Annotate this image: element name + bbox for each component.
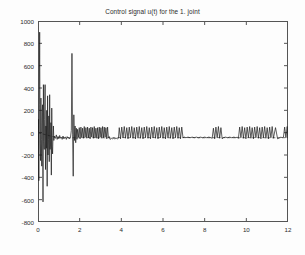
y-tick-label: -600 (8, 196, 34, 203)
y-tick-label: 1000 (8, 18, 34, 25)
y-tick-label: 0 (8, 129, 34, 136)
y-tick-label: 200 (8, 107, 34, 114)
chart-title: Control signal u(t) for the 1. joint (0, 8, 305, 15)
y-tick-label: 400 (8, 85, 34, 92)
plot-svg (38, 21, 288, 222)
plot-area (38, 21, 288, 222)
x-tick-label: 2 (70, 226, 90, 233)
x-tick-label: 10 (236, 226, 256, 233)
x-tick-label: 4 (111, 226, 131, 233)
x-tick-label: 12 (278, 226, 298, 233)
y-tick-label: -800 (8, 219, 34, 226)
y-tick-label: -400 (8, 174, 34, 181)
axis-ticks (38, 21, 288, 222)
y-tick-label: 800 (8, 40, 34, 47)
x-tick-label: 0 (28, 226, 48, 233)
series-line-solid (38, 32, 288, 202)
y-tick-label: -200 (8, 152, 34, 159)
x-tick-label: 8 (195, 226, 215, 233)
chart-figure: Control signal u(t) for the 1. joint -80… (0, 0, 305, 255)
plot-frame (39, 22, 288, 222)
y-tick-label: 600 (8, 62, 34, 69)
x-tick-label: 6 (153, 226, 173, 233)
